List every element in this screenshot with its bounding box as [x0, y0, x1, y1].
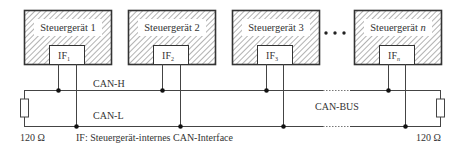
ellipsis-more-ecus	[324, 31, 345, 34]
ecu-3: Steuergerät 3 IF3	[233, 11, 320, 65]
legend-text: IF: Steuergerät-internes CAN-Interface	[76, 132, 234, 143]
can-bus-diagram: Steuergerät 1 IF1 Steuergerät 2 IF2 Steu…	[0, 0, 465, 150]
can-high-label: CAN-H	[93, 78, 125, 89]
resistor-icon	[437, 99, 445, 117]
right-terminator-resistor	[437, 91, 445, 127]
resistor-icon	[21, 99, 29, 117]
ecu-1-label: Steuergerät 1	[40, 22, 96, 33]
ecu-1: Steuergerät 1 IF1	[25, 11, 112, 65]
ecu-2-label: Steuergerät 2	[144, 22, 200, 33]
can-low-label: CAN-L	[93, 110, 124, 121]
ecu-n-label: Steuergerät n	[370, 22, 426, 33]
left-terminator-resistor	[21, 91, 29, 127]
ecu-2: Steuergerät 2 IF2	[129, 11, 216, 65]
ecu-3-label: Steuergerät 3	[248, 22, 304, 33]
right-resistance-label: 120 Ω	[416, 132, 441, 143]
left-resistance-label: 120 Ω	[20, 132, 45, 143]
can-bus-label: CAN-BUS	[315, 101, 359, 112]
ecu-n: Steuergerät n IFn	[355, 11, 442, 65]
